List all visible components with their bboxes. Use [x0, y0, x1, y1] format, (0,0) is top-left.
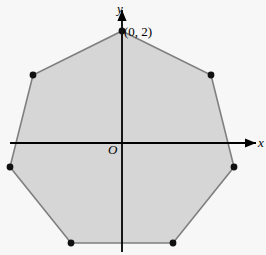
origin-label: O	[108, 143, 117, 156]
vertex-dot	[170, 240, 177, 247]
x-axis-label: x	[258, 136, 264, 149]
vertex-dot	[208, 72, 215, 79]
vertex-dot	[7, 164, 14, 171]
vertex-dot	[68, 240, 75, 247]
vertex-dot	[30, 72, 37, 79]
y-axis-label: y	[117, 2, 123, 15]
vertex-coordinate-label: (0, 2)	[124, 25, 152, 38]
x-axis-arrow-icon	[245, 138, 256, 147]
geometry-figure: y x O (0, 2)	[0, 0, 266, 255]
vertex-dot	[231, 164, 238, 171]
